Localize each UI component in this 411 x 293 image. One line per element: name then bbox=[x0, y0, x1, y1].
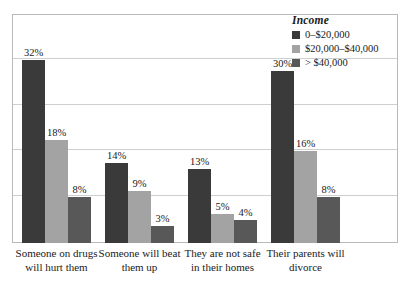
bar-value-label: 14% bbox=[99, 150, 134, 161]
bar-value-label: 13% bbox=[182, 156, 217, 167]
bar-chart: 32%18%8%14%9%3%13%5%4%30%16%8% Income 0–… bbox=[0, 0, 411, 293]
category-label: Their parents will divorce bbox=[263, 246, 349, 274]
bar[interactable] bbox=[211, 214, 234, 243]
bar-value-label: 18% bbox=[39, 127, 74, 138]
bar[interactable] bbox=[317, 197, 340, 243]
legend-swatch-icon bbox=[292, 45, 300, 53]
bar-value-label: 8% bbox=[62, 184, 97, 195]
legend-swatch-icon bbox=[292, 59, 300, 67]
legend-item-label: > $40,000 bbox=[305, 57, 348, 69]
bar-group: 13%5%4% bbox=[188, 14, 257, 243]
legend-item-label: $20,000–$40,000 bbox=[305, 43, 379, 55]
bar-group: 14%9%3% bbox=[105, 14, 174, 243]
bar[interactable] bbox=[68, 197, 91, 243]
bar[interactable] bbox=[234, 220, 257, 243]
bar-value-label: 32% bbox=[16, 47, 51, 58]
legend-swatch-icon bbox=[292, 31, 300, 39]
category-label: They are not safe in their homes bbox=[180, 246, 266, 274]
legend-item[interactable]: $20,000–$40,000 bbox=[292, 42, 396, 55]
bar[interactable] bbox=[22, 60, 45, 243]
bar[interactable] bbox=[294, 151, 317, 243]
category-label: Someone will beat them up bbox=[97, 246, 183, 274]
bar-value-label: 8% bbox=[311, 184, 346, 195]
bar-group: 32%18%8% bbox=[22, 14, 91, 243]
bar[interactable] bbox=[105, 163, 128, 243]
bar-value-label: 3% bbox=[145, 213, 180, 224]
legend-items: 0–$20,000$20,000–$40,000> $40,000 bbox=[292, 28, 396, 69]
category-axis-labels: Someone on drugs will hurt themSomeone w… bbox=[12, 246, 398, 293]
legend-item-label: 0–$20,000 bbox=[305, 29, 350, 41]
bar-value-label: 4% bbox=[228, 207, 263, 218]
bar[interactable] bbox=[151, 226, 174, 243]
legend-item[interactable]: 0–$20,000 bbox=[292, 28, 396, 41]
bar-value-label: 9% bbox=[122, 178, 157, 189]
bar-value-label: 16% bbox=[288, 138, 323, 149]
legend-title: Income bbox=[292, 14, 396, 27]
legend: Income 0–$20,000$20,000–$40,000> $40,000 bbox=[292, 14, 396, 70]
bar[interactable] bbox=[271, 71, 294, 243]
legend-item[interactable]: > $40,000 bbox=[292, 56, 396, 69]
category-label: Someone on drugs will hurt them bbox=[14, 246, 100, 274]
